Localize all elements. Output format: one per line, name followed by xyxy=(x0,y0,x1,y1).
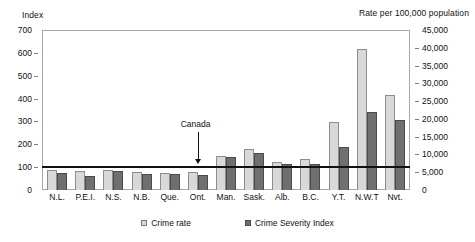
right-tick-label: 5,000 xyxy=(422,168,443,177)
bar-crime-rate xyxy=(75,171,85,190)
bar-crime-severity-index xyxy=(339,147,349,190)
canada-arrow-shaft xyxy=(198,132,199,160)
legend-swatch-crime-severity-index-icon xyxy=(245,220,251,226)
category-label: N.W.T xyxy=(353,192,381,202)
right-tick-label: 25,000 xyxy=(422,97,448,106)
left-tick-mark xyxy=(34,121,38,122)
right-tick-label: 10,000 xyxy=(422,150,448,159)
right-axis-ticks: 05,00010,00015,00020,00025,00030,00035,0… xyxy=(414,30,470,190)
left-tick-label: 400 xyxy=(18,95,32,104)
right-tick-label: 20,000 xyxy=(422,115,448,124)
bar-crime-severity-index xyxy=(254,153,264,190)
category-label: N.S. xyxy=(99,192,127,202)
right-tick-mark xyxy=(415,119,419,120)
right-tick-mark xyxy=(415,172,419,173)
left-tick-mark xyxy=(34,53,38,54)
bar-crime-rate xyxy=(160,173,170,190)
category-label: P.E.I. xyxy=(71,192,99,202)
bar-crime-rate xyxy=(329,122,339,190)
bar-crime-severity-index xyxy=(57,173,67,190)
right-tick-label: 40,000 xyxy=(422,44,448,53)
left-tick-mark xyxy=(34,76,38,77)
right-tick-mark xyxy=(415,48,419,49)
bar-crime-rate xyxy=(47,170,57,190)
category-label: Alb. xyxy=(268,192,296,202)
right-tick-mark xyxy=(415,154,419,155)
left-tick-label: 600 xyxy=(18,49,32,58)
bar-crime-rate xyxy=(357,49,367,190)
crime-severity-chart: Index Rate per 100,000 population 010020… xyxy=(0,0,475,242)
right-tick-mark xyxy=(415,101,419,102)
category-label: N.L. xyxy=(43,192,71,202)
bar-crime-rate xyxy=(300,159,310,190)
legend-label-crime-rate: Crime rate xyxy=(151,218,191,228)
canada-annotation-label: Canada xyxy=(181,119,211,129)
bar-crime-rate xyxy=(132,172,142,190)
legend-item-crime-severity-index: Crime Severity Index xyxy=(245,218,334,228)
right-tick-label: 15,000 xyxy=(422,133,448,142)
category-label: Nvt. xyxy=(381,192,409,202)
left-tick-label: 200 xyxy=(18,140,32,149)
category-axis-labels: N.L.P.E.I.N.S.N.B.Que.Ont.Man.Sask.Alb.B… xyxy=(43,192,409,202)
bar-crime-rate xyxy=(244,149,254,190)
right-tick-mark xyxy=(415,137,419,138)
bar-crime-severity-index xyxy=(142,174,152,190)
right-tick-label: 30,000 xyxy=(422,79,448,88)
category-label: Man. xyxy=(212,192,240,202)
left-tick-mark xyxy=(34,99,38,100)
legend-item-crime-rate: Crime rate xyxy=(141,218,191,228)
bar-crime-severity-index xyxy=(113,171,123,190)
bar-crime-severity-index xyxy=(170,174,180,190)
left-axis-ticks: 0100200300400500600700 xyxy=(4,30,38,190)
right-tick-label: 0 xyxy=(422,186,427,195)
canada-arrow-head-icon xyxy=(195,159,201,164)
bar-crime-rate xyxy=(188,172,198,190)
bar-crime-rate xyxy=(216,156,226,190)
right-tick-mark xyxy=(415,83,419,84)
left-tick-mark xyxy=(34,144,38,145)
right-tick-mark xyxy=(415,66,419,67)
left-tick-label: 0 xyxy=(27,186,32,195)
bar-crime-rate xyxy=(385,95,395,190)
category-label: Ont. xyxy=(184,192,212,202)
right-tick-label: 35,000 xyxy=(422,62,448,71)
legend-swatch-crime-rate-icon xyxy=(141,220,147,226)
left-tick-label: 500 xyxy=(18,72,32,81)
category-label: Y.T. xyxy=(325,192,353,202)
bar-crime-severity-index xyxy=(367,112,377,190)
chart-legend: Crime rate Crime Severity Index xyxy=(0,218,475,228)
left-axis-title: Index xyxy=(22,10,43,20)
right-tick-label: 45,000 xyxy=(422,26,448,35)
bar-crime-rate xyxy=(103,170,113,190)
left-tick-label: 700 xyxy=(18,26,32,35)
left-tick-mark xyxy=(34,167,38,168)
bar-crime-severity-index xyxy=(85,176,95,190)
left-tick-label: 300 xyxy=(18,117,32,126)
category-label: B.C. xyxy=(296,192,324,202)
category-label: Que. xyxy=(156,192,184,202)
bar-crime-severity-index xyxy=(395,120,405,190)
left-tick-label: 100 xyxy=(18,163,32,172)
canada-reference-line xyxy=(42,166,410,168)
legend-label-crime-severity-index: Crime Severity Index xyxy=(255,218,334,228)
category-label: Sask. xyxy=(240,192,268,202)
bar-crime-severity-index xyxy=(198,175,208,190)
category-label: N.B. xyxy=(127,192,155,202)
right-axis-title: Rate per 100,000 population xyxy=(359,8,469,18)
bar-crime-severity-index xyxy=(226,157,236,190)
